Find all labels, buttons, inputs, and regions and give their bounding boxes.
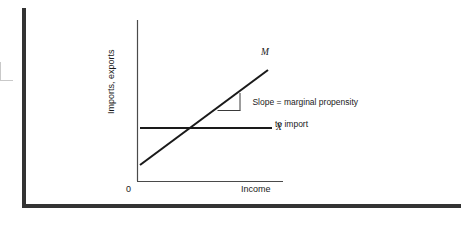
slope-annotation: Slope = marginal propensity to import [243,86,358,152]
figure-canvas: Imports, exports 0 Income M X Slope = ma… [0,0,461,226]
chart-graphics [0,0,461,226]
slope-annotation-line1: Slope = marginal propensity [252,97,358,107]
curve-label-m: M [261,48,269,58]
origin-label: 0 [126,185,131,194]
y-axis-title: Imports, exports [107,49,116,114]
slope-annotation-line2: to import [243,119,358,130]
x-axis-title: Income [241,185,271,194]
chart-svg [0,0,461,226]
